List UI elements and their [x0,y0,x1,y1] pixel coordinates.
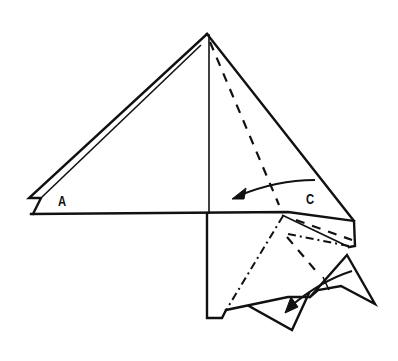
origami-diagram [0,0,398,361]
mountain-fold-horizontal [288,234,349,246]
label-a: A [58,192,66,209]
valley-fold-lower-right [296,220,352,240]
label-c: C [306,190,314,207]
right-triangle-edge [207,34,355,247]
left-triangle-edges [29,34,207,214]
valley-fold-lower-diagonal [287,237,316,271]
base-line [31,212,354,221]
valley-fold-line-upper [210,42,279,205]
mountain-fold-diagonal [225,216,283,312]
fold-arrow-lower [285,271,352,313]
